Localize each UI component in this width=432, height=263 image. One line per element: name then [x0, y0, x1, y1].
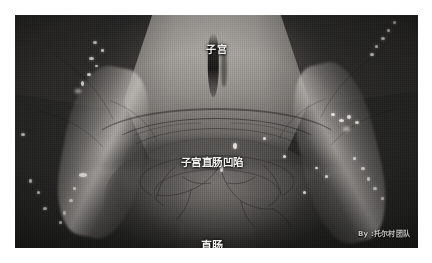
specular-highlight [370, 53, 374, 56]
specular-highlight [393, 21, 396, 24]
specular-highlight [339, 119, 344, 122]
specular-highlight [75, 89, 81, 93]
specular-highlight [343, 127, 350, 131]
specular-highlight [87, 73, 91, 76]
specular-highlight [315, 167, 318, 169]
specular-highlight [69, 199, 73, 202]
specular-highlight [387, 29, 390, 32]
specular-highlight [220, 165, 223, 172]
specular-highlight [355, 121, 359, 124]
specular-highlight [283, 155, 286, 158]
specular-highlight [353, 157, 356, 160]
specular-highlight [21, 133, 25, 136]
specular-highlight [37, 191, 40, 194]
specular-highlight [63, 211, 66, 215]
specular-highlight [325, 175, 328, 178]
specular-highlight [93, 41, 97, 44]
surgical-photograph: 子宫 子宫直肠凹陷 直肠 By :托尔村团队 [15, 15, 418, 248]
specular-highlight [101, 49, 104, 52]
specular-highlight [303, 191, 306, 194]
specular-highlight [73, 187, 76, 190]
specular-highlight [367, 177, 370, 181]
specular-highlight [89, 57, 94, 60]
specular-highlight [263, 137, 266, 140]
specular-highlight [347, 115, 351, 119]
specular-highlight [233, 143, 237, 149]
specular-highlight [331, 113, 335, 116]
screenshot-root: 子宫 子宫直肠凹陷 直肠 By :托尔村团队 [0, 0, 432, 263]
specular-highlight [381, 37, 385, 40]
specular-highlight [375, 45, 378, 48]
specular-highlight [29, 179, 32, 183]
specular-highlight [373, 187, 377, 190]
specular-highlight [43, 207, 47, 210]
serosal-vessels [15, 15, 418, 248]
specular-highlight [381, 197, 384, 200]
specular-highlight [361, 167, 365, 170]
specular-highlight [95, 65, 98, 67]
specular-highlight [59, 221, 62, 224]
specular-highlight [81, 81, 84, 86]
specular-highlight [79, 173, 87, 177]
